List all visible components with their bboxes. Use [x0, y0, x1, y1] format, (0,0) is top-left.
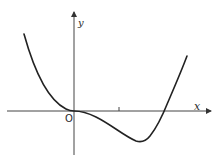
origin-label: O — [65, 113, 73, 124]
function-curve — [24, 34, 187, 142]
y-axis-label: y — [77, 17, 84, 28]
function-graph: y x O — [0, 0, 215, 166]
x-axis-label: x — [194, 100, 201, 113]
